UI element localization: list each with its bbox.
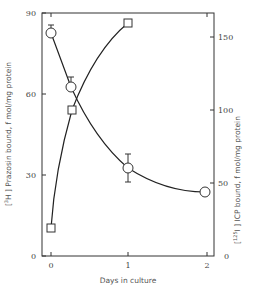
icp-markers bbox=[47, 19, 132, 232]
x-axis bbox=[51, 13, 207, 256]
left-axis bbox=[42, 13, 46, 256]
right-axis bbox=[210, 37, 214, 183]
tick-left-60: 60 bbox=[26, 90, 36, 99]
circle-marker bbox=[46, 28, 56, 38]
tick-left-30: 30 bbox=[26, 171, 36, 180]
svg-text:[125I ] ICP bound, f mol/mg: [125I ] ICP bound, f mol/mg protein bbox=[232, 116, 242, 244]
chart-canvas: 90 60 30 0 150 100 50 0 0 1 2 Days in cu… bbox=[0, 0, 256, 298]
y-right-axis-title: [125I ] ICP bound, f mol/mg protein bbox=[232, 116, 242, 244]
tick-x-1: 1 bbox=[125, 261, 130, 270]
circle-marker bbox=[200, 187, 210, 197]
plot-frame bbox=[42, 13, 214, 256]
y-left-axis-title: [3H ] Prazosin bound, f mol/mg protein bbox=[3, 62, 13, 206]
circle-marker bbox=[123, 163, 133, 173]
tick-right-100: 100 bbox=[218, 106, 233, 115]
tick-right-50: 50 bbox=[218, 179, 228, 188]
tick-right-0: 0 bbox=[224, 252, 229, 261]
tick-x-0: 0 bbox=[48, 261, 53, 270]
tick-x-2: 2 bbox=[204, 261, 209, 270]
tick-left-90: 90 bbox=[26, 9, 36, 18]
square-marker bbox=[47, 224, 55, 232]
square-marker bbox=[68, 106, 76, 114]
square-marker bbox=[124, 19, 132, 27]
icp-curve bbox=[51, 23, 128, 228]
x-axis-title: Days in culture bbox=[100, 276, 157, 285]
tick-left-0: 0 bbox=[31, 252, 36, 261]
svg-text:[3H ] Prazosin bound, f mol/: [3H ] Prazosin bound, f mol/mg protein bbox=[3, 62, 13, 206]
tick-right-150: 150 bbox=[218, 33, 233, 42]
circle-marker bbox=[66, 82, 76, 92]
